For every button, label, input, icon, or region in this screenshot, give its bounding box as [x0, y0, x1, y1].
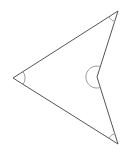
angle-arc-left [23, 72, 25, 85]
dart-quadrilateral-diagram [0, 0, 127, 157]
angle-arc-bottom [109, 134, 115, 139]
angle-arc-reflex [86, 66, 100, 88]
quadrilateral-outline [13, 11, 118, 144]
angle-arc-top [109, 17, 115, 22]
